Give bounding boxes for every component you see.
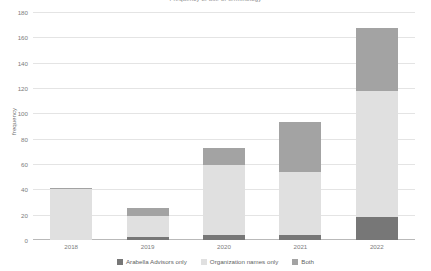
plot-area xyxy=(33,12,415,240)
bar-2020[interactable] xyxy=(203,148,245,240)
legend-label: Both xyxy=(301,258,314,265)
x-axis-tick-label-2019: 2019 xyxy=(118,243,178,250)
x-axis-tick-label-2021: 2021 xyxy=(270,243,330,250)
y-axis-tick-label: 180 xyxy=(18,9,28,16)
bar-segment-2018-1[interactable] xyxy=(50,189,92,240)
y-axis-tick-label: 60 xyxy=(21,161,28,168)
y-axis: frequency 020406080100120140160180 xyxy=(0,0,33,271)
bar-segment-2021-2[interactable] xyxy=(279,122,321,171)
bar-chart: Frequency of use of terminology frequenc… xyxy=(0,0,431,271)
bar-segment-2019-0[interactable] xyxy=(127,237,169,240)
legend-swatch-icon xyxy=(292,259,298,265)
bar-2018[interactable] xyxy=(50,188,92,240)
bar-segment-2020-2[interactable] xyxy=(203,148,245,166)
x-axis-tick-label-2018: 2018 xyxy=(41,243,101,250)
x-axis-tick-label-2022: 2022 xyxy=(347,243,407,250)
bar-2021[interactable] xyxy=(279,122,321,240)
y-axis-tick-label: 120 xyxy=(18,85,28,92)
bar-2022[interactable] xyxy=(356,28,398,240)
bar-segment-2022-2[interactable] xyxy=(356,28,398,90)
legend-label: Arabella Advisors only xyxy=(126,258,187,265)
bar-segment-2022-0[interactable] xyxy=(356,217,398,240)
y-axis-tick-label: 0 xyxy=(25,237,28,244)
y-axis-tick-label: 160 xyxy=(18,34,28,41)
bar-segment-2020-0[interactable] xyxy=(203,235,245,240)
bar-2019[interactable] xyxy=(127,208,169,240)
y-axis-tick-label: 140 xyxy=(18,59,28,66)
y-axis-tick-label: 40 xyxy=(21,186,28,193)
legend-swatch-icon xyxy=(201,259,207,265)
gridline xyxy=(33,12,415,13)
bar-segment-2022-1[interactable] xyxy=(356,91,398,218)
y-axis-tick-label: 80 xyxy=(21,135,28,142)
chart-title: Frequency of use of terminology xyxy=(0,0,431,2)
y-axis-tick-label: 20 xyxy=(21,211,28,218)
bar-segment-2019-2[interactable] xyxy=(127,208,169,216)
x-axis: 20182019202020212022 xyxy=(33,243,415,255)
y-axis-title: frequency xyxy=(10,92,17,152)
x-axis-tick-label-2020: 2020 xyxy=(194,243,254,250)
y-axis-tick-label: 100 xyxy=(18,110,28,117)
bar-segment-2019-1[interactable] xyxy=(127,216,169,238)
bar-segment-2021-0[interactable] xyxy=(279,235,321,240)
legend-item-0[interactable]: Arabella Advisors only xyxy=(117,258,187,265)
chart-legend: Arabella Advisors onlyOrganization names… xyxy=(0,258,431,265)
legend-item-1[interactable]: Organization names only xyxy=(201,258,278,265)
legend-swatch-icon xyxy=(117,259,123,265)
legend-item-2[interactable]: Both xyxy=(292,258,314,265)
legend-label: Organization names only xyxy=(210,258,278,265)
bar-segment-2021-1[interactable] xyxy=(279,172,321,235)
bar-segment-2020-1[interactable] xyxy=(203,165,245,235)
